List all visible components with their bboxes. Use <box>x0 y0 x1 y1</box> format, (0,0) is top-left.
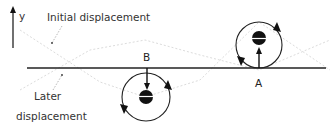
point-a-label: A <box>255 77 263 89</box>
rotation-arrow-icon <box>164 80 172 90</box>
rotation-arrow-icon <box>120 104 128 114</box>
y-axis-arrow-icon <box>10 6 16 48</box>
particle-b-group: B <box>120 51 172 121</box>
later-displacement-wave <box>20 40 330 90</box>
initial-leader-dot <box>51 42 53 44</box>
rotation-arrow-icon <box>273 22 281 32</box>
arrowhead-up-icon <box>256 47 262 54</box>
later-leader-dot <box>61 74 63 76</box>
later-displacement-label-line2: displacement <box>16 110 87 122</box>
wave-particle-diagram: y Initial displacement Later displacemen… <box>0 0 333 128</box>
later-displacement-label-line1: Later <box>34 90 62 102</box>
initial-leader-line <box>52 26 62 43</box>
particle-a-group: A <box>236 22 282 89</box>
arrowhead-down-icon <box>144 83 150 90</box>
y-axis-label: y <box>19 10 25 22</box>
later-leader-line <box>53 75 62 90</box>
initial-displacement-label: Initial displacement <box>47 11 150 23</box>
point-b-label: B <box>143 51 150 63</box>
